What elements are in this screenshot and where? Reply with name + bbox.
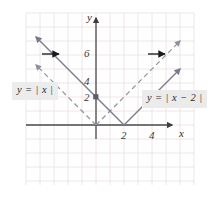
y-tick-label-2: 2 xyxy=(84,92,90,103)
y-axis-label: y xyxy=(87,12,92,23)
y-tick-label-4: 4 xyxy=(84,76,90,87)
absolute-value-graph-figure: 6 4 2 2 4 y x y = | x | y = | x − 2 | xyxy=(0,0,212,197)
axis-lines xyxy=(26,18,172,139)
label-y-equals-abs-x: y = | x | xyxy=(12,82,58,100)
y-tick-label-6: 6 xyxy=(84,48,90,59)
x-axis-label: x xyxy=(179,128,184,139)
x-tick-label-2: 2 xyxy=(121,130,127,141)
label-y-equals-abs-x-minus-2: y = | x − 2 | xyxy=(142,90,207,108)
curve-y-equals-abs-x-minus-2 xyxy=(36,37,180,125)
y-intercept-marker xyxy=(93,94,98,99)
x-tick-label-4: 4 xyxy=(149,130,155,141)
